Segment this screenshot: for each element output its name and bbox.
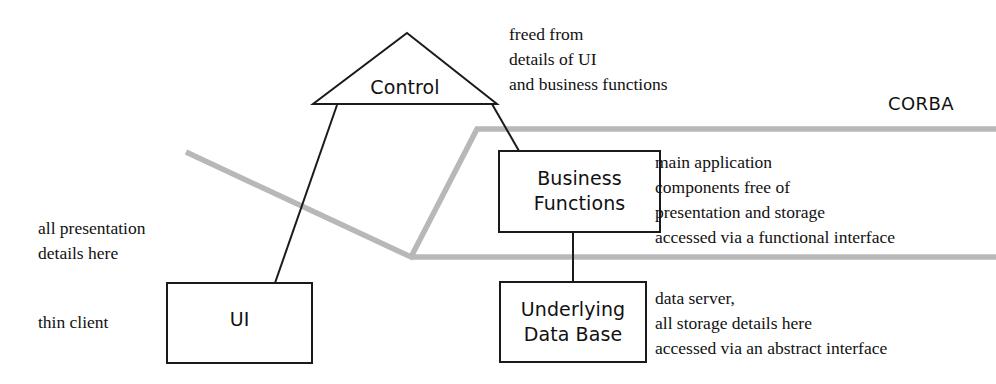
underlying-database-annotation: data server, all storage details here ac… [655,286,887,361]
connector-control-to-ui [275,105,337,283]
presentation-annotation: all presentation details here [38,216,145,266]
underlying-database-label: Underlying Data Base [500,297,646,347]
corba-bus-label: CORBA [888,93,954,114]
ui-label: UI [167,307,312,332]
business-functions-label: Business Functions [499,166,660,216]
thin-client-annotation: thin client [38,310,108,335]
control-label: Control [313,75,497,100]
control-annotation: freed from details of UI and business fu… [509,22,667,97]
architecture-diagram: Control UI Business Functions Underlying… [0,0,996,384]
business-functions-annotation: main application components free of pres… [655,150,895,250]
